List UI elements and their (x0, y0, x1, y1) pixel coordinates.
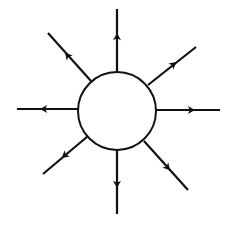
field-line-down (113, 150, 121, 214)
field-line-up-left (48, 33, 91, 81)
field-line-up (113, 9, 121, 72)
field-line-stroke (148, 47, 196, 85)
field-line-down-right (144, 141, 188, 190)
field-line-left (17, 105, 79, 113)
field-line-stroke (48, 33, 91, 81)
field-lines-diagram (0, 0, 228, 226)
field-line-stroke (144, 141, 188, 190)
field-line-down-left (43, 136, 88, 174)
field-line-right (156, 106, 220, 114)
field-line-up-right (148, 47, 196, 85)
central-charge-circle (78, 72, 156, 150)
